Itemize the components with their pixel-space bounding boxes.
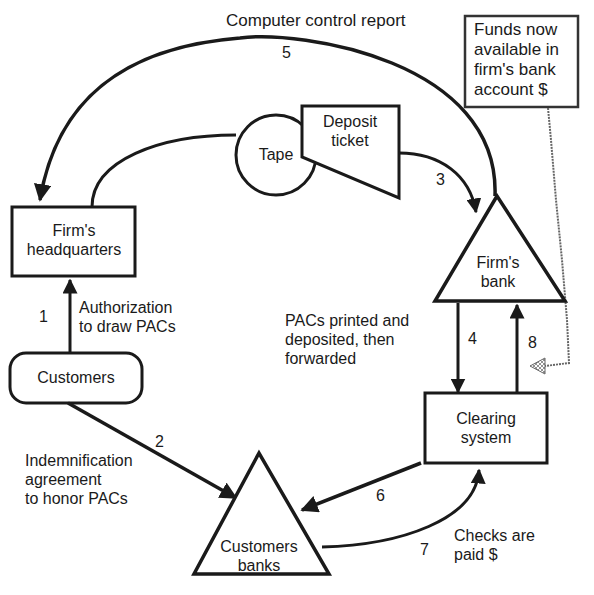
flow-1-label-line1: Authorization (79, 298, 176, 317)
customers-label: Customers (12, 368, 140, 387)
flow-7-label-line1: Checks are (454, 526, 535, 545)
firms-bank-line2: bank (465, 272, 531, 291)
funds-note-text: Funds now available in firm's bank accou… (474, 20, 559, 100)
flow-6-arrow (302, 463, 421, 510)
flow-1-label-line2: to draw PACs (79, 317, 176, 336)
firms-bank-line1: Firm's (465, 253, 531, 272)
flow-6-number: 6 (376, 487, 385, 505)
funds-note-connector (545, 108, 569, 366)
flow-8-number: 8 (528, 334, 537, 352)
clearing-system-line1: Clearing (427, 409, 545, 428)
firm-hq-line2: headquarters (14, 240, 134, 259)
funds-note-line4: account $ (474, 80, 559, 100)
firms-bank-label: Firm's bank (465, 253, 531, 291)
funds-note-pointer (530, 358, 545, 374)
funds-note-line1: Funds now (474, 20, 559, 40)
flow-4-label-line2: deposited, then (285, 330, 409, 349)
clearing-system-label: Clearing system (427, 409, 545, 447)
flow-4-label: PACs printed and deposited, then forward… (285, 311, 409, 368)
flow-4-number: 4 (468, 330, 477, 348)
firm-hq-line1: Firm's (14, 221, 134, 240)
flow-1-number: 1 (39, 308, 48, 326)
flow-2-label-line3: to honor PACs (25, 489, 133, 508)
customers-banks-label: Customers banks (214, 537, 304, 575)
flow-7-number: 7 (420, 541, 429, 559)
firm-hq-label: Firm's headquarters (14, 221, 134, 259)
funds-note-line3: firm's bank (474, 60, 559, 80)
deposit-ticket-label: Deposit ticket (316, 112, 384, 150)
customers-banks-line1: Customers (214, 537, 304, 556)
tape-connector (92, 135, 236, 207)
flow-4-label-line1: PACs printed and (285, 311, 409, 330)
flow-2-label-line2: agreement (25, 470, 133, 489)
flow-4-label-line3: forwarded (285, 349, 409, 368)
clearing-system-line2: system (427, 428, 545, 447)
deposit-ticket-line2: ticket (316, 131, 384, 150)
flow-7-label-line2: paid $ (454, 545, 535, 564)
customers-banks-line2: banks (214, 556, 304, 575)
flow-1-label: Authorization to draw PACs (79, 298, 176, 336)
flow-2-label-line1: Indemnification (25, 451, 133, 470)
funds-note-line2: available in (474, 40, 559, 60)
deposit-ticket-line1: Deposit (316, 112, 384, 131)
flow-2-label: Indemnification agreement to honor PACs (25, 451, 133, 508)
flow-2-number: 2 (155, 433, 164, 451)
diagram-title: Computer control report (226, 11, 406, 30)
tape-label: Tape (246, 145, 306, 164)
flow-5-number: 5 (282, 44, 291, 62)
flow-7-label: Checks are paid $ (454, 526, 535, 564)
flow-3-number: 3 (436, 171, 445, 189)
